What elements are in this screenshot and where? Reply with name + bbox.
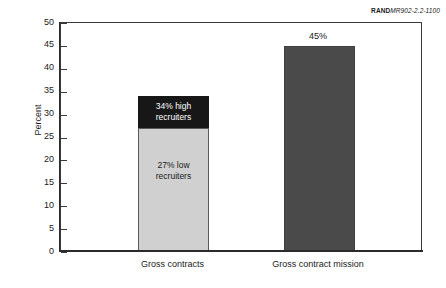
y-tick-label-0: 0 — [20, 247, 54, 256]
y-tick-30 — [61, 115, 67, 116]
bar-2[interactable] — [284, 23, 355, 252]
y-tick-25 — [61, 138, 67, 139]
x-category-label-2: Gross contract mission — [238, 259, 398, 269]
x-category-label-1: Gross contracts — [93, 259, 253, 269]
bar-1-segment-1[interactable]: 27% lowrecruiters — [138, 128, 209, 252]
y-tick-35 — [61, 92, 67, 93]
segment-label: 27% lowrecruiters — [156, 160, 191, 182]
y-axis-label: Percent — [33, 90, 43, 150]
y-tick-0 — [61, 252, 67, 253]
y-tick-50 — [61, 23, 67, 24]
y-tick-15 — [61, 183, 67, 184]
y-tick-40 — [61, 69, 67, 70]
plot-area: 27% lowrecruiters34% highrecruiters — [60, 22, 422, 251]
y-tick-20 — [61, 160, 67, 161]
y-tick-label-15: 15 — [20, 178, 54, 187]
y-tick-label-5: 5 — [20, 224, 54, 233]
y-tick-label-35: 35 — [20, 86, 54, 95]
y-tick-label-45: 45 — [20, 40, 54, 49]
y-tick-label-25: 25 — [20, 132, 54, 141]
x-axis-baseline — [59, 250, 423, 252]
y-tick-label-50: 50 — [20, 18, 54, 27]
y-tick-label-30: 30 — [20, 109, 54, 118]
figure: RANDMR902-2.2-1100 Percent 27% lowrecrui… — [0, 0, 446, 288]
bar-1-segment-2[interactable]: 34% highrecruiters — [138, 96, 209, 128]
document-id: MR902-2.2-1100 — [390, 7, 440, 14]
y-tick-45 — [61, 46, 67, 47]
y-tick-10 — [61, 206, 67, 207]
rand-credit-line: RANDMR902-2.2-1100 — [371, 7, 440, 14]
y-tick-5 — [61, 229, 67, 230]
bar-1[interactable]: 27% lowrecruiters34% highrecruiters — [138, 23, 209, 252]
segment-label: 34% highrecruiters — [156, 101, 191, 123]
bar-2-segment-1[interactable] — [284, 46, 355, 252]
rand-logo-text: RAND — [371, 7, 390, 14]
y-tick-label-40: 40 — [20, 63, 54, 72]
y-tick-label-10: 10 — [20, 201, 54, 210]
y-tick-label-20: 20 — [20, 155, 54, 164]
bar-2-value-label: 45% — [288, 31, 348, 41]
